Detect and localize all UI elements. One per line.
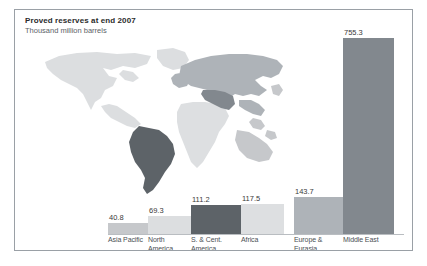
- category-label-line: Eurasia: [294, 245, 322, 251]
- bar-value-label-0: 40.8: [109, 213, 124, 222]
- bar-chart-plot: 40.8 69.3 111.2 117.5 143.7 755.3: [108, 24, 404, 234]
- bar-column-5[interactable]: 755.3: [343, 24, 394, 234]
- category-label-line: Africa: [241, 236, 258, 245]
- bar-column-1[interactable]: 69.3: [148, 24, 191, 234]
- bar-value-label-2: 111.2: [192, 195, 210, 204]
- category-label-4: Europe &Eurasia: [294, 236, 322, 251]
- category-label-line: Middle East: [343, 236, 378, 245]
- bar-column-4[interactable]: 143.7: [294, 24, 343, 234]
- chart-figure: Proved reserves at end 2007 Thousand mil…: [14, 9, 413, 251]
- category-label-line: Europe &: [294, 236, 322, 245]
- category-label-0: Asia Pacific: [108, 236, 143, 245]
- bar-3[interactable]: [241, 204, 284, 234]
- category-label-2: S. & Cent.America: [191, 236, 222, 251]
- category-label-5: Middle East: [343, 236, 378, 245]
- axis-baseline: [108, 234, 404, 235]
- bar-5[interactable]: [343, 38, 394, 234]
- bar-1[interactable]: [148, 216, 191, 234]
- bar-column-0[interactable]: 40.8: [108, 24, 148, 234]
- category-label-line: Asia Pacific: [108, 236, 143, 245]
- bar-column-3[interactable]: 117.5: [241, 24, 284, 234]
- bar-value-label-4: 143.7: [295, 187, 314, 196]
- bar-0[interactable]: [108, 223, 148, 234]
- category-label-line: America: [191, 245, 222, 251]
- category-label-row: Asia Pacific NorthAmerica S. & Cent.Amer…: [108, 236, 410, 251]
- category-label-1: NorthAmerica: [148, 236, 173, 251]
- category-label-3: Africa: [241, 236, 258, 245]
- category-label-line: North: [148, 236, 173, 245]
- bar-value-label-1: 69.3: [149, 206, 164, 215]
- bar-value-label-3: 117.5: [242, 194, 260, 203]
- category-label-line: America: [148, 245, 173, 251]
- bar-4[interactable]: [294, 197, 343, 234]
- bar-value-label-5: 755.3: [344, 28, 363, 37]
- category-label-line: S. & Cent.: [191, 236, 222, 245]
- bar-column-2[interactable]: 111.2: [191, 24, 241, 234]
- bar-2[interactable]: [191, 205, 241, 234]
